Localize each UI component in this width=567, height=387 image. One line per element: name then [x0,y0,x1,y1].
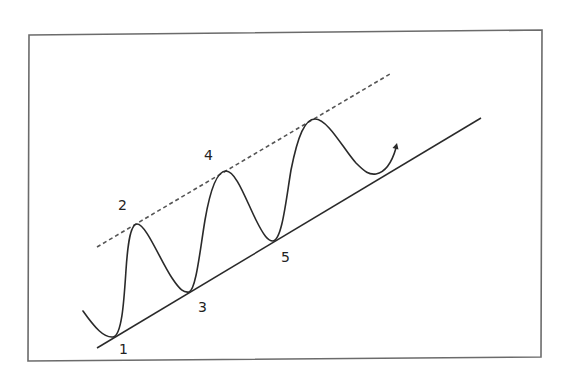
point-label-2: 2 [118,197,127,213]
point-label-1: 1 [119,341,128,357]
arrow-head-icon [393,143,399,150]
support-trend-line [97,118,481,348]
point-label-3: 3 [198,299,207,315]
diagram-frame [28,30,542,361]
point-label-4: 4 [204,147,213,163]
point-label-5: 5 [281,249,290,265]
diagram-canvas: 1 2 3 4 5 [0,0,567,387]
resistance-line-dashed [97,74,390,247]
